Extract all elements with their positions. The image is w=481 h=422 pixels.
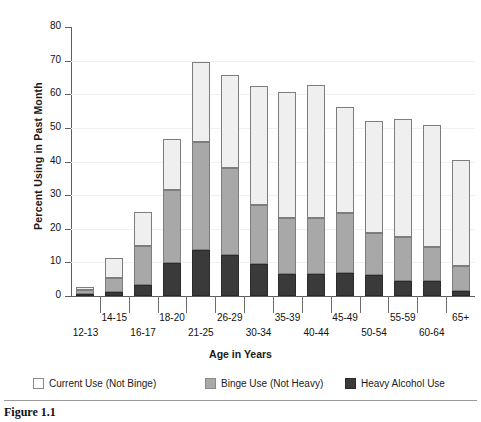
bar-segment-heavy-use: [221, 255, 239, 296]
bar-segment-heavy-use: [278, 274, 296, 296]
x-axis-tick-label-26-29: 26-29: [217, 312, 243, 323]
x-axis-tick-label-45-49: 45-49: [332, 312, 358, 323]
x-axis-tick-label-65+: 65+: [452, 312, 469, 323]
bar-segment-binge-use: [307, 218, 325, 275]
bar-segment-heavy-use: [307, 274, 325, 296]
x-axis-tick-label-35-39: 35-39: [275, 312, 301, 323]
y-axis-tick-label: 60: [33, 87, 61, 98]
bar-segment-heavy-use: [452, 291, 470, 296]
bar-segment-heavy-use: [76, 294, 94, 296]
bar-segment-current-use: [221, 75, 239, 167]
x-axis-title: Age in Years: [0, 348, 481, 360]
bar-segment-heavy-use: [192, 250, 210, 296]
bar-segment-current-use: [307, 85, 325, 217]
x-axis-tick-label-16-17: 16-17: [130, 327, 156, 338]
bar-segment-current-use: [365, 121, 383, 233]
bar-35-39: [278, 92, 296, 296]
x-axis-tick: [273, 296, 274, 313]
bar-16-17: [134, 212, 152, 296]
bar-segment-current-use: [250, 86, 268, 205]
bar-30-34: [250, 86, 268, 296]
bar-12-13: [76, 287, 94, 296]
figure-caption: Figure 1.1: [4, 405, 56, 420]
y-axis-tick-label: 70: [33, 54, 61, 65]
bar-40-44: [307, 85, 325, 296]
bar-segment-binge-use: [423, 247, 441, 280]
y-axis-tick-label: 80: [33, 20, 61, 31]
bar-segment-binge-use: [336, 213, 354, 274]
bar-segment-heavy-use: [365, 275, 383, 296]
bar-segment-current-use: [394, 119, 412, 237]
bar-segment-current-use: [423, 125, 441, 248]
bar-18-20: [163, 139, 181, 296]
chart-plot-area: Percent Using in Past Month 010203040506…: [0, 0, 481, 370]
bar-55-59: [394, 119, 412, 296]
bar-segment-binge-use: [163, 190, 181, 263]
x-axis-tick: [215, 296, 216, 313]
x-axis-tick-label-30-34: 30-34: [246, 327, 272, 338]
caption-divider: [4, 400, 477, 401]
legend-swatch-current-icon: [33, 378, 44, 389]
x-axis-tick-label-21-25: 21-25: [188, 327, 214, 338]
bar-segment-heavy-use: [105, 292, 123, 296]
bar-segment-heavy-use: [134, 285, 152, 296]
x-axis-tick-label-12-13: 12-13: [73, 327, 99, 338]
bar-21-25: [192, 62, 210, 296]
bar-segment-current-use: [336, 107, 354, 213]
bar-segment-current-use: [134, 212, 152, 247]
bar-14-15: [105, 258, 123, 296]
legend-label-heavy: Heavy Alcohol Use: [361, 378, 445, 389]
bar-segment-heavy-use: [394, 281, 412, 296]
bar-segment-heavy-use: [250, 264, 268, 296]
legend-item-heavy: Heavy Alcohol Use: [345, 378, 445, 389]
x-axis-tick: [417, 296, 418, 313]
bar-segment-binge-use: [394, 237, 412, 281]
bar-segment-binge-use: [221, 168, 239, 255]
bar-segment-current-use: [192, 62, 210, 143]
x-axis-tick: [331, 296, 332, 313]
y-axis-tick-label: 50: [33, 121, 61, 132]
bar-segment-current-use: [452, 160, 470, 267]
x-axis-tick-label-14-15: 14-15: [101, 312, 127, 323]
bar-segment-current-use: [105, 258, 123, 277]
x-axis-tick-label-40-44: 40-44: [303, 327, 329, 338]
x-axis-tick: [360, 296, 361, 313]
bar-segment-binge-use: [134, 246, 152, 285]
bar-segment-binge-use: [192, 142, 210, 249]
x-axis-tick-label-18-20: 18-20: [159, 312, 185, 323]
bar-segment-current-use: [163, 139, 181, 190]
bar-26-29: [221, 75, 239, 296]
legend-item-binge: Binge Use (Not Heavy): [205, 378, 323, 389]
x-axis-tick: [388, 296, 389, 313]
x-axis-tick: [158, 296, 159, 313]
x-axis-tick: [100, 296, 101, 313]
y-axis-tick-label: 40: [33, 155, 61, 166]
y-axis-tick-label: 0: [33, 289, 61, 300]
bar-45-49: [336, 107, 354, 296]
x-axis-tick: [186, 296, 187, 313]
bar-50-54: [365, 121, 383, 296]
bar-segment-binge-use: [250, 205, 268, 265]
figure-1-1: Percent Using in Past Month 010203040506…: [0, 0, 481, 422]
legend-item-current: Current Use (Not Binge): [33, 378, 156, 389]
x-axis-tick-label-55-59: 55-59: [390, 312, 416, 323]
legend-label-current: Current Use (Not Binge): [49, 378, 156, 389]
x-axis-tick-label-50-54: 50-54: [361, 327, 387, 338]
x-axis-tick: [302, 296, 303, 313]
bar-segment-binge-use: [105, 278, 123, 293]
y-axis-tick-label: 20: [33, 222, 61, 233]
bar-60-64: [423, 125, 441, 296]
y-axis-tick-label: 10: [33, 255, 61, 266]
legend-swatch-heavy-icon: [345, 378, 356, 389]
x-axis-tick: [129, 296, 130, 313]
bar-segment-heavy-use: [163, 263, 181, 296]
y-axis-tick: [65, 296, 71, 297]
x-axis-tick-label-60-64: 60-64: [419, 327, 445, 338]
bar-segment-binge-use: [452, 266, 470, 291]
bar-segment-heavy-use: [423, 281, 441, 296]
y-axis-tick-label: 30: [33, 188, 61, 199]
bar-series-layer: [71, 27, 475, 296]
x-axis-tick: [244, 296, 245, 313]
bar-65+: [452, 160, 470, 296]
bar-segment-heavy-use: [336, 273, 354, 296]
